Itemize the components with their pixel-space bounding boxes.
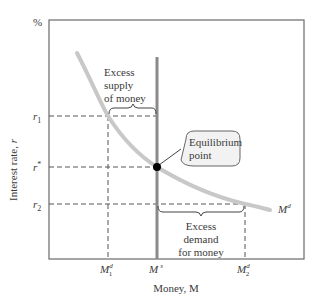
svg-text:for money: for money xyxy=(178,246,224,258)
x-axis-title: Money, M xyxy=(153,282,199,294)
m1d-label: Md1 xyxy=(99,262,113,278)
m2d-label: Md2 xyxy=(236,262,250,278)
equilibrium-leader xyxy=(159,149,181,165)
rstar-label: r* xyxy=(33,160,41,173)
r2-label: r2 xyxy=(33,198,41,213)
y-unit-label: % xyxy=(33,16,42,28)
svg-text:Excess: Excess xyxy=(104,66,135,78)
svg-text:supply: supply xyxy=(104,79,134,91)
svg-text:Equilibrium: Equilibrium xyxy=(189,136,243,148)
excess-supply-text: Excess supply of money xyxy=(104,66,146,104)
svg-text:demand: demand xyxy=(184,233,219,245)
money-demand-label: Md xyxy=(277,202,291,215)
excess-supply-brace xyxy=(109,104,156,114)
ms-label: Ms xyxy=(148,262,163,275)
svg-text:Excess: Excess xyxy=(186,220,217,232)
plot-frame xyxy=(49,20,304,259)
svg-text:point: point xyxy=(189,149,212,161)
money-market-diagram: % Interest rate, r r1 r* r2 Md1 Ms Md2 M… xyxy=(0,0,320,303)
svg-text:of money: of money xyxy=(104,92,146,104)
y-axis-title: Interest rate, r xyxy=(7,138,19,201)
r1-label: r1 xyxy=(33,110,41,125)
excess-demand-text: Excess demand for money xyxy=(178,220,224,258)
excess-demand-brace xyxy=(158,206,244,216)
equilibrium-point xyxy=(153,163,161,171)
